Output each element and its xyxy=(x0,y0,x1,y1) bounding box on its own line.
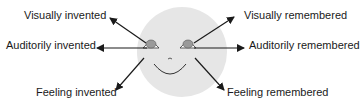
label-feeling-invented: Feeling invented xyxy=(36,86,117,98)
arrow-feeling-invented xyxy=(116,58,144,90)
eye-accessing-diagram: Visually invented Auditorily invented Fe… xyxy=(0,0,363,109)
label-auditorily-invented: Auditorily invented xyxy=(6,39,96,51)
arrow-visually-invented xyxy=(110,18,146,43)
label-visually-remembered: Visually remembered xyxy=(244,9,347,21)
label-visually-invented: Visually invented xyxy=(24,9,106,21)
face-circle xyxy=(137,7,227,97)
label-auditorily-remembered: Auditorily remembered xyxy=(249,39,360,51)
label-feeling-remembered: Feeling remembered xyxy=(227,86,329,98)
